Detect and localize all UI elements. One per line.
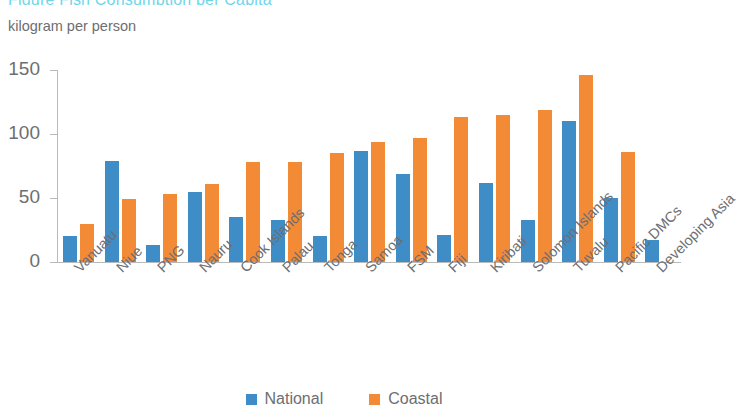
bar-group [435,70,477,262]
bar-national [188,192,202,262]
y-tick-50: 50 [50,198,57,199]
legend-swatch-icon [369,394,380,405]
bar-group [144,70,186,262]
bar-group [477,70,519,262]
chart-legend: NationalCoastal [0,390,688,408]
legend-label: National [265,390,324,408]
bar-group [394,70,436,262]
bar-national [229,217,243,262]
legend-item[interactable]: National [246,390,324,408]
legend-label: Coastal [388,390,442,408]
legend-swatch-icon [246,394,257,405]
cut-off-figure-title: Figure Fish Consumption per Capita [8,0,272,5]
bar-group [227,70,269,262]
y-tick-100: 100 [50,134,57,135]
y-axis-unit-label: kilogram per person [8,18,136,34]
bar-coastal [538,110,552,262]
plot-area: 050100150 [57,70,681,262]
y-tick-label: 150 [8,58,40,80]
bar-group [311,70,353,262]
bar-coastal [496,115,510,262]
bar-group-container [57,70,681,262]
bar-group [602,70,644,262]
y-tick-150: 150 [50,70,57,71]
legend-item[interactable]: Coastal [369,390,442,408]
x-axis-labels: VanuatuNiuePNGNauruCook IslandsPalauTong… [57,264,697,374]
bar-group [519,70,561,262]
bar-national [479,183,493,262]
bar-coastal [454,117,468,262]
y-tick-0: 0 [50,262,57,263]
y-tick-label: 0 [29,250,40,272]
bar-group [61,70,103,262]
bar-group [352,70,394,262]
y-tick-label: 100 [8,122,40,144]
bar-group [186,70,228,262]
y-tick-label: 50 [19,186,40,208]
